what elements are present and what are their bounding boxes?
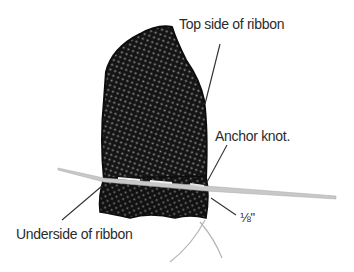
thread-tail-left <box>170 220 205 262</box>
ribbon-top-side <box>102 26 207 180</box>
thread-tail-right <box>200 222 222 258</box>
label-underside: Underside of ribbon <box>16 226 133 242</box>
label-measurement: ⅛" <box>240 210 255 225</box>
leader-line-underside <box>62 186 102 220</box>
leader-line-top-side <box>205 44 220 104</box>
leader-line-measurement <box>211 198 236 215</box>
leader-line-anchor-knot <box>207 145 227 182</box>
label-top-side: Top side of ribbon <box>179 16 284 32</box>
ribbon-diagram: Top side of ribbon Anchor knot. ⅛" Under… <box>0 0 354 272</box>
label-anchor-knot: Anchor knot. <box>215 128 290 144</box>
